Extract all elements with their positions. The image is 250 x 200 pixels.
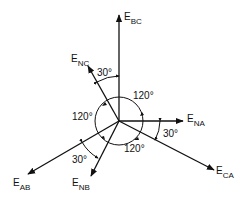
angle-label-120-left: 120°	[72, 111, 93, 122]
phasor-diagram: EBC ENC ENA ECA EAB ENB 30° 120° 120° 12…	[0, 0, 250, 200]
angle-arc-na-ca	[155, 121, 160, 140]
angle-label-30-right: 30°	[163, 128, 178, 139]
label-e-ca: ECA	[216, 165, 234, 180]
angle-label-120-upper-right: 120°	[133, 90, 154, 101]
label-e-na: ENA	[187, 113, 205, 128]
circle-arrow-right	[140, 112, 144, 116]
label-e-nb: ENB	[72, 177, 90, 192]
angle-label-120-lower-right: 120°	[124, 143, 145, 154]
angle-label-30-top: 30°	[97, 67, 112, 78]
angle-label-30-bottom: 30°	[72, 154, 87, 165]
label-e-ab: EAB	[13, 177, 30, 192]
label-e-bc: EBC	[124, 11, 142, 26]
label-e-nc: ENC	[71, 53, 89, 68]
